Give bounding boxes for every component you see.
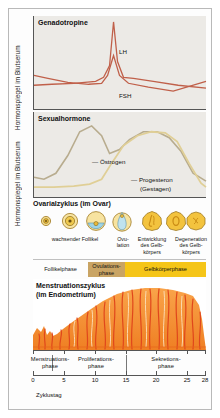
curve-label-progesteron-sub: (Gestagen) <box>140 185 171 192</box>
progesteron-leader: — <box>131 176 139 183</box>
uterine-phase-sekretion-l2: phase <box>158 363 174 369</box>
curve-label-oestrogen: — Östrogen <box>92 158 125 165</box>
graafian-follicle-icon <box>85 210 107 232</box>
cycle-day-axis <box>33 375 206 376</box>
endometrium-title-l1: Menstruationszyklus <box>36 282 105 289</box>
corpus-luteum-mature-icon <box>165 210 187 232</box>
caption-ovulation-l1: Ovu- <box>117 236 128 242</box>
caption-degeneration-l1: Degeneration <box>175 236 207 242</box>
endometrium-baseline <box>33 350 206 351</box>
panel-gonadotropine-title: Genadotropine <box>38 19 88 26</box>
cycle-day-tick-25 <box>187 371 188 375</box>
caption-entwicklung-gelbkoerper: Entwicklung des Gelb- körpers <box>131 236 173 255</box>
cycle-day-tick-0 <box>33 371 34 375</box>
panel-ovarialzyklus: Ovarialzyklus (im Ovar) <box>33 200 206 258</box>
curve-label-progesteron: — Progesteron <box>131 176 173 183</box>
uterine-phase-sekretion-l1: Sekretions- <box>151 356 180 362</box>
caption-degeneration-l3: körpers <box>182 249 200 255</box>
follicle-icon-row <box>33 210 206 234</box>
cycle-day-label-25: 25 <box>181 377 193 383</box>
phase-follikelphase: Follikelphase <box>33 262 88 277</box>
ovulation-icon <box>111 210 133 232</box>
ovarian-phase-bar: Follikelphase Ovulations-phase Gelbkörpe… <box>33 259 206 278</box>
cycle-day-tick-15 <box>126 371 127 375</box>
axis-tick-5 <box>64 350 65 354</box>
panel-sexualhormone-title: Sexualhormone <box>38 115 91 122</box>
cycle-day-label-0: 0 <box>27 377 39 383</box>
caption-entwicklung-l3: körpers <box>143 249 161 255</box>
uterine-phase-proliferation-l1: Proliferations- <box>78 356 114 362</box>
endometrium-title-l2: (im Endometrium) <box>36 291 96 298</box>
cycle-day-tick-20 <box>156 371 157 375</box>
corpus-albicans-icon <box>185 210 207 232</box>
axis-tick-20 <box>156 350 157 354</box>
panel-ovarialzyklus-title: Ovarialzyklus (im Ovar) <box>33 200 111 207</box>
uterine-phase-proliferation-l2: phase <box>88 363 104 369</box>
cycle-day-label-28: 28 <box>199 377 211 383</box>
axis-tick-25 <box>187 350 188 354</box>
caption-ovulation-l2: lation <box>117 242 130 248</box>
phase-ovulationsphase: Ovulations-phase <box>88 262 125 277</box>
y-axis-label-bottom: Hormonspiegel im Blutserum <box>14 126 21 226</box>
oestrogen-text: Östrogen <box>100 158 125 165</box>
menstrual-cycle-figure: Hormonspiegel im Blutserum Hormonspiegel… <box>0 0 220 418</box>
growing-follicle-icon <box>59 210 81 232</box>
curve-label-lh: LH <box>119 48 127 55</box>
phase-ovulationsphase-l2: phase <box>99 270 114 276</box>
cycle-day-tick-28 <box>205 371 206 375</box>
axis-tick-15 <box>126 350 127 354</box>
curve-label-fsh: FSH <box>119 92 131 99</box>
caption-entwicklung-l1: Entwicklung <box>138 236 166 242</box>
cycle-day-label-15: 15 <box>120 377 132 383</box>
corpus-luteum-developing-icon <box>141 210 163 232</box>
panel-endometrium-title: Menstruationszyklus (im Endometrium) <box>36 282 105 299</box>
caption-degeneration-gelbkoerper: Degeneration des Gelb- körpers <box>169 236 213 255</box>
y-axis-label-top: Hormonspiegel im Blutserum <box>14 30 21 130</box>
cycle-day-tick-10 <box>95 371 96 375</box>
caption-degeneration-l2: des Gelb- <box>180 242 203 248</box>
axis-tick-28 <box>205 350 206 354</box>
cycle-day-label-20: 20 <box>150 377 162 383</box>
axis-tick-0 <box>33 350 34 354</box>
x-axis-label: Zyklustag <box>36 392 62 398</box>
cycle-day-label-5: 5 <box>58 377 70 383</box>
progesteron-text: Progesteron <box>139 176 173 183</box>
primordial-follicle-icon <box>35 210 57 232</box>
uterine-phase-proliferation: Proliferations- phase <box>58 356 134 370</box>
uterine-phase-sekretion: Sekretions- phase <box>130 356 202 370</box>
caption-wachsender-follikel: wachsender Follikel <box>39 236 111 242</box>
uterine-phase-menstruation-l2: phase <box>42 363 58 369</box>
panel-sexualhormone <box>33 112 206 198</box>
cycle-day-label-10: 10 <box>89 377 101 383</box>
cycle-day-tick-5 <box>64 371 65 375</box>
axis-tick-10 <box>95 350 96 354</box>
caption-entwicklung-l2: des Gelb- <box>141 242 164 248</box>
phase-gelbkoerperphase: Gelbkörperphase <box>125 262 206 277</box>
phase-ovulationsphase-l1: Ovulations- <box>92 263 120 269</box>
oestrogen-leader: — <box>92 158 100 165</box>
